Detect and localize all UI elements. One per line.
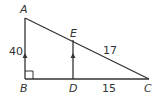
vertex-label-a: A: [19, 3, 28, 16]
length-label-dc: 15: [102, 82, 116, 95]
parallel-arrow-ed-icon: [71, 53, 76, 58]
vertex-label-e: E: [70, 27, 77, 40]
vertex-label-c: C: [144, 82, 152, 95]
vertex-label-b: B: [20, 82, 28, 95]
vertex-label-d: D: [69, 82, 77, 95]
length-label-ab: 40: [9, 45, 23, 58]
right-angle-marker: [25, 71, 33, 79]
parallel-arrow-ab-icon: [23, 53, 28, 58]
segment-ac: [25, 18, 149, 79]
triangle-diagram: A B C D E 40 17 15: [0, 0, 163, 101]
length-label-ec: 17: [103, 44, 117, 57]
